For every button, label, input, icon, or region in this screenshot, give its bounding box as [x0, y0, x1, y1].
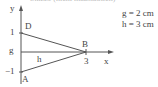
- segment-DB: [21, 33, 86, 52]
- legend-g: g = 2 cm: [122, 9, 154, 18]
- segment-AB: [21, 52, 86, 72]
- x-axis-label: x: [104, 57, 109, 66]
- point-label-D: D: [25, 22, 32, 31]
- y-axis-label: y: [10, 4, 15, 13]
- y-axis-arrow-icon: [19, 5, 23, 11]
- point-label-A: A: [22, 75, 29, 84]
- segment-label-g: g: [9, 46, 14, 55]
- tick-label-3: 3: [84, 57, 89, 66]
- x-axis-arrow-icon: [108, 50, 114, 54]
- legend-h: h = 3 cm: [122, 20, 154, 29]
- point-label-B: B: [82, 40, 88, 49]
- tick-label-1: 1: [10, 28, 15, 37]
- tick-label-minus-1: −1: [5, 67, 15, 76]
- segment-label-h: h: [37, 55, 42, 64]
